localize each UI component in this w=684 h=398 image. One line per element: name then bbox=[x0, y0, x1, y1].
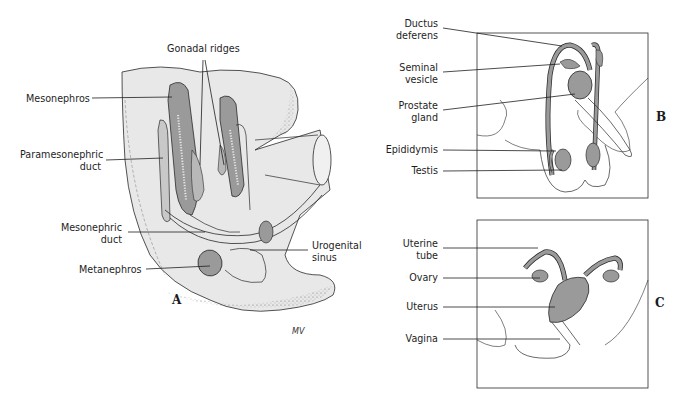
panel-a-illustration bbox=[122, 67, 335, 311]
label-uterine-tube-line1: Uterine bbox=[380, 238, 438, 249]
label-paramesonephric-duct-line1: Paramesonephric bbox=[20, 149, 101, 160]
panel-letter-c: C bbox=[655, 296, 665, 310]
label-mesonephric-duct-line2: duct bbox=[55, 234, 122, 245]
label-epididymis: Epididymis bbox=[370, 144, 438, 155]
label-uterine-tube-line2: tube bbox=[380, 250, 438, 261]
label-urogenital-sinus-line2: sinus bbox=[312, 252, 337, 263]
label-ovary: Ovary bbox=[380, 272, 438, 283]
label-gonadal-ridges: Gonadal ridges bbox=[167, 43, 240, 54]
label-paramesonephric-duct-line2: duct bbox=[20, 161, 101, 172]
label-seminal-vesicle-line2: vesicle bbox=[380, 74, 438, 85]
panel-b-illustration bbox=[477, 33, 648, 198]
diagram-canvas: MV bbox=[0, 0, 684, 398]
label-ductus-deferens-line1: Ductus bbox=[380, 18, 438, 29]
label-prostate-gland-line2: gland bbox=[380, 112, 438, 123]
label-mesonephric-duct-line1: Mesonephric bbox=[55, 222, 122, 233]
label-urogenital-sinus-line1: Urogenital bbox=[312, 240, 362, 251]
label-mesonephros: Mesonephros bbox=[26, 93, 90, 104]
label-prostate-gland-line1: Prostate bbox=[380, 100, 438, 111]
panel-letter-a: A bbox=[172, 293, 181, 307]
label-vagina: Vagina bbox=[380, 333, 438, 344]
label-uterus: Uterus bbox=[380, 301, 438, 312]
panel-c-illustration bbox=[477, 220, 648, 388]
label-metanephros: Metanephros bbox=[79, 264, 142, 275]
signature: MV bbox=[292, 327, 305, 336]
label-testis: Testis bbox=[380, 165, 438, 176]
label-ductus-deferens-line2: deferens bbox=[380, 30, 438, 41]
panel-letter-b: B bbox=[656, 110, 666, 124]
label-seminal-vesicle-line1: Seminal bbox=[380, 62, 438, 73]
